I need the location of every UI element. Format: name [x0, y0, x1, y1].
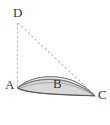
- vertex-label-a: A: [5, 78, 14, 91]
- vertex-label-c: C: [98, 88, 107, 101]
- vertex-label-d: D: [13, 6, 22, 19]
- vertex-label-b: B: [53, 77, 62, 90]
- geometry-figure: D A B C: [0, 0, 110, 125]
